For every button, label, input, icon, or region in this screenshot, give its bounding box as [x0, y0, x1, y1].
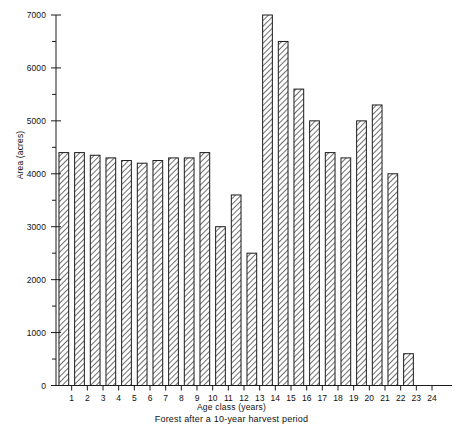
x-axis-tick-label: 7	[158, 394, 174, 403]
x-axis-tick-label: 21	[377, 394, 393, 403]
y-axis-tick-label: 6000	[12, 64, 46, 73]
x-axis-tick-label: 14	[267, 394, 283, 403]
bar	[75, 153, 85, 386]
y-axis-tick-label: 0	[12, 382, 46, 391]
bar	[106, 158, 116, 386]
bar	[357, 121, 367, 386]
y-axis-tick-label: 1000	[12, 329, 46, 338]
x-axis-tick-label: 6	[142, 394, 158, 403]
bar	[184, 158, 194, 386]
bar	[372, 105, 382, 386]
bar	[325, 153, 335, 386]
y-axis-tick-label: 7000	[12, 11, 46, 20]
bar	[153, 161, 163, 386]
bar	[388, 174, 398, 386]
y-axis-tick-label: 4000	[12, 170, 46, 179]
bar	[122, 161, 132, 386]
x-axis-tick-label: 18	[330, 394, 346, 403]
figure-bar-chart-forest-age-class: Area (acres) 010002000300040005000600070…	[0, 0, 463, 427]
plot-area	[0, 0, 463, 400]
bar	[278, 41, 288, 385]
x-axis-tick-label: 19	[346, 394, 362, 403]
x-axis-tick-label: 9	[189, 394, 205, 403]
x-axis-tick-label: 2	[79, 394, 95, 403]
x-axis-tick-label: 11	[220, 394, 236, 403]
bar	[137, 163, 147, 385]
figure-caption: Forest after a 10-year harvest period	[0, 414, 463, 424]
y-axis-tick-label: 2000	[12, 276, 46, 285]
x-axis-tick-label: 17	[314, 394, 330, 403]
x-axis-tick-label: 22	[393, 394, 409, 403]
x-axis-tick-label: 13	[252, 394, 268, 403]
x-axis-tick-label: 15	[283, 394, 299, 403]
x-axis-tick-label: 20	[361, 394, 377, 403]
bar	[263, 15, 273, 386]
bar	[231, 195, 241, 386]
bars-group	[59, 15, 413, 386]
y-axis-tick-label: 3000	[12, 223, 46, 232]
bar	[294, 89, 304, 385]
x-axis-tick-label: 16	[299, 394, 315, 403]
x-axis-tick-label: 1	[64, 394, 80, 403]
bar	[404, 354, 414, 386]
bar	[310, 121, 320, 386]
x-axis-tick-label: 10	[205, 394, 221, 403]
x-axis-tick-label: 24	[424, 394, 440, 403]
x-axis-tick-label: 4	[111, 394, 127, 403]
x-axis-tick-label: 5	[126, 394, 142, 403]
bar	[341, 158, 351, 386]
x-axis-tick-label: 8	[173, 394, 189, 403]
x-axis-tick-label: 3	[95, 394, 111, 403]
x-axis-title: Age class (years)	[0, 402, 463, 412]
bar	[169, 158, 179, 386]
bar	[90, 155, 100, 385]
bar	[216, 227, 226, 386]
y-axis-tick-label: 5000	[12, 117, 46, 126]
x-axis-tick-label: 12	[236, 394, 252, 403]
bar	[200, 153, 210, 386]
chart-canvas	[0, 0, 463, 400]
bar	[59, 153, 69, 386]
bar	[247, 253, 257, 385]
x-axis-tick-label: 23	[408, 394, 424, 403]
